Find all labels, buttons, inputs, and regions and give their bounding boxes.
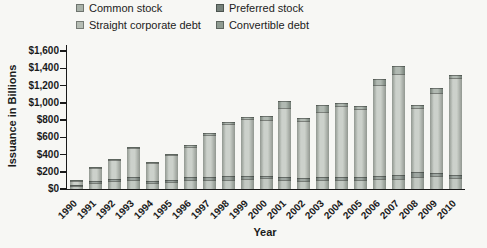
bar-segment-common-stock bbox=[392, 179, 405, 189]
x-tick-label: 1998 bbox=[207, 198, 231, 222]
bar-segment-common-stock bbox=[222, 180, 235, 189]
x-tick-label: 1994 bbox=[132, 198, 156, 222]
y-tick-label: $1,600 bbox=[28, 45, 59, 57]
convertible-debt-swatch-icon bbox=[216, 21, 224, 29]
stacked-bar-1994 bbox=[146, 45, 159, 189]
x-tick-label: 2007 bbox=[378, 198, 402, 222]
bar-segment-common-stock bbox=[335, 180, 348, 189]
preferred-stock-swatch-icon bbox=[216, 4, 224, 12]
x-tick-label: 2005 bbox=[340, 198, 364, 222]
stacked-bar-2005 bbox=[354, 45, 367, 189]
bar-segment-straight-corporate-debt bbox=[165, 155, 178, 179]
y-tick-mark bbox=[60, 50, 66, 52]
x-axis-title: Year bbox=[66, 226, 464, 238]
legend-label: Preferred stock bbox=[229, 2, 304, 14]
bar-segment-common-stock bbox=[260, 178, 273, 189]
y-tick-mark bbox=[60, 171, 66, 173]
bar-segment-common-stock bbox=[108, 181, 121, 189]
bar-segment-straight-corporate-debt bbox=[297, 121, 310, 178]
bar-segment-straight-corporate-debt bbox=[184, 147, 197, 177]
bar-segment-straight-corporate-debt bbox=[241, 119, 254, 176]
y-tick-label: $1,200 bbox=[28, 80, 59, 92]
bar-segment-straight-corporate-debt bbox=[89, 168, 102, 181]
legend-label: Straight corporate debt bbox=[89, 19, 201, 31]
y-tick-mark bbox=[60, 188, 66, 190]
x-tick-label: 2004 bbox=[321, 198, 345, 222]
straight-corporate-debt-swatch-icon bbox=[76, 21, 84, 29]
stacked-bar-1999 bbox=[241, 45, 254, 189]
bar-segment-common-stock bbox=[278, 180, 291, 189]
bar-segment-common-stock bbox=[316, 180, 329, 189]
x-tick-label: 1999 bbox=[226, 198, 250, 222]
bar-segment-common-stock bbox=[241, 179, 254, 189]
bar-segment-straight-corporate-debt bbox=[108, 160, 121, 179]
x-tick-label: 1996 bbox=[170, 198, 194, 222]
legend-label: Common stock bbox=[89, 2, 162, 14]
x-tick-label: 1992 bbox=[94, 198, 118, 222]
bar-segment-common-stock bbox=[411, 177, 424, 189]
y-tick-mark bbox=[60, 137, 66, 139]
bar-segment-straight-corporate-debt bbox=[127, 148, 140, 176]
y-tick-mark bbox=[60, 85, 66, 87]
bar-segment-straight-corporate-debt bbox=[449, 78, 462, 175]
x-tick-label: 1991 bbox=[75, 198, 99, 222]
stacked-bar-1991 bbox=[89, 45, 102, 189]
stacked-bar-2006 bbox=[373, 45, 386, 189]
stacked-bar-1990 bbox=[70, 45, 83, 189]
y-tick-label: $400 bbox=[37, 149, 59, 161]
bar-segment-convertible-debt bbox=[392, 66, 405, 74]
stacked-bar-2009 bbox=[430, 45, 443, 189]
bar-segment-common-stock bbox=[146, 183, 159, 189]
bar-segment-straight-corporate-debt bbox=[222, 124, 235, 176]
x-tick-label: 1993 bbox=[113, 198, 137, 222]
y-tick-label: $200 bbox=[37, 166, 59, 178]
stacked-bar-1996 bbox=[184, 45, 197, 189]
legend-label: Convertible debt bbox=[229, 19, 309, 31]
bar-segment-straight-corporate-debt bbox=[335, 106, 348, 177]
bar-segment-common-stock bbox=[127, 180, 140, 189]
x-tick-label: 1990 bbox=[56, 198, 80, 222]
bar-segment-common-stock bbox=[297, 181, 310, 189]
legend-item-straight-corporate-debt: Straight corporate debt bbox=[76, 19, 201, 31]
y-tick-label: $800 bbox=[37, 114, 59, 126]
bar-segment-common-stock bbox=[89, 183, 102, 189]
x-tick-label: 1997 bbox=[189, 198, 213, 222]
x-tick-label: 2006 bbox=[359, 198, 383, 222]
stacked-bar-2003 bbox=[316, 45, 329, 189]
x-tick-label: 2002 bbox=[283, 198, 307, 222]
stacked-bar-1997 bbox=[203, 45, 216, 189]
bar-segment-common-stock bbox=[203, 180, 216, 189]
y-tick-label: $1,400 bbox=[28, 62, 59, 74]
bar-segment-straight-corporate-debt bbox=[146, 163, 159, 181]
bar-segment-common-stock bbox=[184, 180, 197, 189]
x-tick-label: 2000 bbox=[245, 198, 269, 222]
y-tick-mark bbox=[60, 119, 66, 121]
legend-item-convertible-debt: Convertible debt bbox=[216, 19, 309, 31]
x-tick-label: 2003 bbox=[302, 198, 326, 222]
stacked-bar-2007 bbox=[392, 45, 405, 189]
bar-segment-straight-corporate-debt bbox=[316, 112, 329, 178]
bar-segment-straight-corporate-debt bbox=[411, 108, 424, 172]
y-tick-mark bbox=[60, 102, 66, 104]
x-tick-label: 2001 bbox=[264, 198, 288, 222]
bar-segment-straight-corporate-debt bbox=[392, 74, 405, 175]
bar-segment-straight-corporate-debt bbox=[430, 93, 443, 173]
y-tick-label: $600 bbox=[37, 131, 59, 143]
y-tick-mark bbox=[60, 68, 66, 70]
chart-figure: Common stock Preferred stock Straight co… bbox=[0, 0, 487, 248]
bar-segment-straight-corporate-debt bbox=[278, 108, 291, 178]
common-stock-swatch-icon bbox=[76, 4, 84, 12]
stacked-bar-1998 bbox=[222, 45, 235, 189]
stacked-bar-1995 bbox=[165, 45, 178, 189]
bar-segment-straight-corporate-debt bbox=[260, 120, 273, 176]
bar-segment-straight-corporate-debt bbox=[203, 135, 216, 176]
y-tick-mark bbox=[60, 154, 66, 156]
legend-item-common-stock: Common stock bbox=[76, 2, 201, 14]
stacked-bar-2004 bbox=[335, 45, 348, 189]
bar-segment-common-stock bbox=[449, 178, 462, 189]
bar-segment-common-stock bbox=[354, 180, 367, 189]
x-tick-label: 2010 bbox=[435, 198, 459, 222]
x-tick-label: 2009 bbox=[416, 198, 440, 222]
stacked-bar-2008 bbox=[411, 45, 424, 189]
stacked-bar-2002 bbox=[297, 45, 310, 189]
